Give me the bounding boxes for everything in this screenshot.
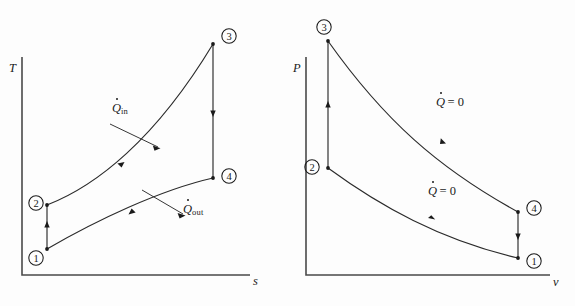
state-number-4: 4 — [531, 203, 537, 214]
state-marker-1: 1 — [527, 254, 541, 268]
q-zero-lower-label: Q= 0 — [428, 185, 456, 198]
state-number-2: 2 — [33, 198, 38, 209]
state-number-1: 1 — [33, 253, 38, 264]
state-dot-2 — [45, 203, 49, 207]
state-dot-4 — [516, 210, 520, 214]
process-3-4-arrow — [440, 138, 446, 144]
pressure-volume-diagram: 1 2 3 4 P v Q= 0 Q= 0 — [288, 0, 575, 306]
state-marker-4: 4 — [527, 201, 541, 215]
ts-diagram-svg: 1 2 3 4 T s — [0, 0, 287, 306]
process-2-3-arrow — [325, 101, 330, 108]
process-1-2-arrow — [44, 221, 49, 228]
x-axis-label-v: v — [553, 275, 559, 289]
y-axis-label-T: T — [9, 61, 17, 75]
q-out-symbol: Q — [183, 203, 192, 216]
q-out-label: Qout — [183, 203, 204, 216]
q-zero-lower-equals: = 0 — [437, 184, 456, 198]
temperature-entropy-diagram: 1 2 3 4 T s Qin Qout — [0, 0, 287, 306]
q-in-leader-line — [110, 124, 158, 147]
ts-axes — [22, 57, 250, 275]
state-dot-3 — [211, 42, 215, 46]
state-dot-1 — [45, 247, 49, 251]
state-number-1: 1 — [531, 256, 536, 267]
y-axis-label-P: P — [292, 61, 301, 75]
state-dot-2 — [326, 166, 330, 170]
pv-axes — [306, 57, 550, 275]
state-marker-3: 3 — [317, 20, 331, 34]
q-out-subscript: out — [192, 207, 203, 217]
state-marker-2: 2 — [305, 160, 319, 174]
q-zero-lower-symbol: Q — [428, 185, 437, 198]
q-zero-upper-symbol: Q — [436, 96, 445, 109]
state-number-2: 2 — [309, 162, 314, 173]
state-marker-1: 1 — [29, 251, 43, 265]
pv-diagram-svg: 1 2 3 4 P v — [288, 0, 575, 306]
q-in-subscript: in — [121, 106, 128, 116]
state-dot-1 — [516, 256, 520, 260]
process-2-3-curve — [47, 44, 213, 205]
q-zero-upper-equals: = 0 — [445, 95, 464, 109]
x-axis-label-s: s — [253, 274, 258, 288]
state-marker-3: 3 — [222, 29, 236, 43]
process-1-2-curve — [328, 168, 518, 258]
state-marker-2: 2 — [29, 196, 43, 210]
process-1-2-arrow — [428, 215, 435, 219]
state-number-3: 3 — [226, 31, 231, 42]
state-marker-4: 4 — [222, 169, 236, 183]
q-zero-upper-label: Q= 0 — [436, 96, 464, 109]
state-number-4: 4 — [226, 171, 232, 182]
process-3-4-arrow — [210, 111, 215, 118]
state-dot-3 — [326, 39, 330, 43]
figure-canvas: 1 2 3 4 T s Qin Qout — [0, 0, 575, 306]
state-number-3: 3 — [321, 22, 326, 33]
q-in-label: Qin — [112, 102, 128, 115]
state-dot-4 — [211, 176, 215, 180]
process-3-4-curve — [328, 41, 518, 212]
q-in-symbol: Q — [112, 102, 121, 115]
process-4-1-arrow — [129, 209, 136, 215]
process-4-1-arrow — [515, 234, 520, 241]
process-2-3-arrow — [117, 162, 124, 168]
